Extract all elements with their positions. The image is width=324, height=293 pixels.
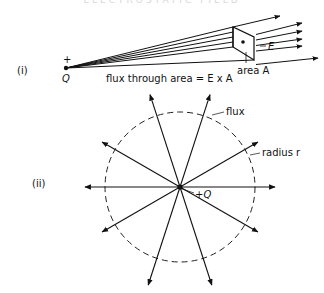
radial-field-line bbox=[148, 187, 180, 285]
radial-field-line bbox=[150, 95, 180, 187]
field-lines-fan bbox=[66, 16, 318, 68]
fan-line-arrow bbox=[256, 39, 302, 46]
central-charge bbox=[177, 184, 182, 189]
part-ii: (ii) +Q flux radius r bbox=[32, 95, 301, 285]
area-label: area A bbox=[237, 65, 269, 76]
charge-label: Q bbox=[62, 73, 70, 84]
fan-line-arrow bbox=[256, 46, 302, 51]
radial-field-line bbox=[180, 142, 258, 187]
part-ii-label: (ii) bbox=[32, 178, 45, 189]
radial-field-line bbox=[180, 187, 212, 285]
fan-line bbox=[66, 37, 233, 68]
fan-line-arrow bbox=[233, 16, 280, 27]
radius-label: radius r bbox=[262, 147, 301, 158]
charge-sign: + bbox=[63, 54, 71, 65]
part-i: (i) + Q E area A flux through area = E x… bbox=[17, 16, 318, 84]
radial-field-line bbox=[180, 95, 210, 187]
radial-field-line bbox=[102, 142, 180, 187]
area-dot bbox=[241, 40, 245, 44]
radial-field-lines bbox=[85, 95, 275, 285]
header-fragment: ELECTROSTATIC FIELD bbox=[83, 0, 240, 5]
flux-caption: flux through area = E x A bbox=[106, 73, 233, 84]
charge-pointer bbox=[182, 189, 194, 193]
central-charge-label: +Q bbox=[195, 189, 211, 200]
field-e-label: E bbox=[268, 41, 275, 52]
flux-pointer bbox=[212, 112, 224, 115]
radial-field-line bbox=[102, 187, 180, 232]
flux-label: flux bbox=[226, 106, 245, 117]
radius-pointer bbox=[250, 153, 260, 155]
fan-line-arrow bbox=[256, 58, 318, 65]
flux-diagram: ELECTROSTATIC FIELD (i) + Q E area A flu… bbox=[0, 0, 324, 293]
radial-field-line bbox=[180, 187, 258, 232]
part-i-label: (i) bbox=[17, 65, 28, 76]
